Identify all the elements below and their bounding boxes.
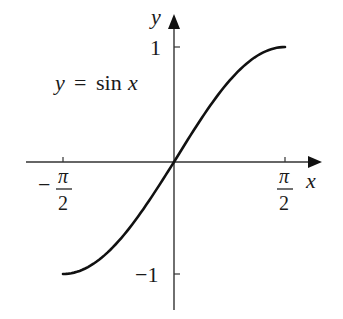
svg-text:x: x <box>127 70 138 95</box>
x-axis-arrow-icon <box>308 156 322 168</box>
svg-text:2: 2 <box>58 192 68 214</box>
svg-text:2: 2 <box>279 192 289 214</box>
x-tick-label-pi-over-2: π 2 <box>277 165 293 214</box>
y-tick-label-1: 1 <box>150 35 161 60</box>
x-tick-label-neg-pi-over-2: − π 2 <box>38 165 72 214</box>
y-axis-label: y <box>149 4 161 29</box>
svg-text:π: π <box>58 165 69 187</box>
svg-text:sin: sin <box>96 70 122 95</box>
svg-text:π: π <box>279 165 290 187</box>
curve-annotation: y = sin x <box>53 70 138 95</box>
y-axis-arrow-icon <box>168 14 180 29</box>
sine-chart: y x 1 −1 − π 2 π 2 y = sin x <box>0 0 343 319</box>
x-axis-label: x <box>305 168 316 193</box>
svg-text:−: − <box>38 172 50 197</box>
svg-text:y: y <box>53 70 65 95</box>
y-tick-label-neg1: −1 <box>135 262 158 287</box>
svg-text:=: = <box>74 70 86 95</box>
